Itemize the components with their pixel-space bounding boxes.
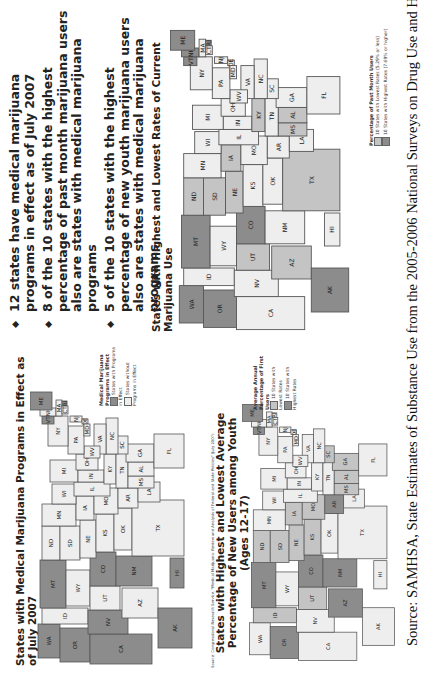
state-ct: CT: [205, 46, 212, 55]
state-nd: ND: [253, 531, 270, 563]
state-ca: CA: [237, 297, 305, 330]
svg-text:CO: CO: [100, 564, 106, 573]
svg-text:KY: KY: [314, 473, 320, 480]
svg-text:NY: NY: [55, 427, 61, 435]
svg-text:SD: SD: [67, 539, 73, 547]
map-legend: Average Annual Percentage of First Users…: [252, 350, 298, 410]
svg-text:HI: HI: [377, 572, 383, 578]
state-nm: NM: [265, 211, 305, 244]
state-ms: MS: [128, 476, 154, 488]
svg-text:CO: CO: [247, 220, 254, 229]
state-ks: KS: [304, 519, 321, 555]
svg-text:CT: CT: [272, 417, 278, 425]
state-ar: AR: [267, 136, 289, 158]
svg-text:VT: VT: [187, 57, 194, 65]
legend-item: 10 States with Lowest Rates: [270, 350, 284, 410]
state-ky: KY: [312, 463, 323, 491]
svg-text:ME: ME: [38, 396, 44, 405]
svg-text:MN: MN: [199, 161, 206, 171]
svg-text:AR: AR: [275, 142, 282, 151]
state-mn: MN: [253, 510, 285, 531]
svg-text:OH: OH: [229, 103, 236, 112]
svg-text:GA: GA: [288, 92, 295, 102]
svg-text:SC: SC: [119, 441, 125, 448]
svg-text:AL: AL: [289, 111, 296, 119]
svg-text:NJ: NJ: [217, 57, 225, 64]
svg-text:NV: NV: [312, 617, 318, 625]
svg-text:NJ: NJ: [282, 427, 289, 433]
state-mi: MI: [261, 468, 287, 489]
state-wy: WY: [66, 570, 90, 606]
state-ar: AR: [118, 488, 138, 508]
svg-text:NC: NC: [316, 442, 322, 450]
state-mi: MI: [193, 105, 224, 129]
svg-text:UT: UT: [309, 594, 315, 602]
svg-text:ND: ND: [190, 192, 197, 202]
svg-text:TX: TX: [359, 529, 365, 537]
svg-text:IN: IN: [296, 481, 302, 487]
svg-text:WA: WA: [188, 299, 195, 310]
svg-text:CT: CT: [62, 406, 68, 414]
state-ne: NE: [226, 171, 244, 213]
svg-text:LA: LA: [351, 495, 357, 502]
svg-text:MT: MT: [192, 237, 199, 246]
legend-title: Average Annual Percentage of First Users: [252, 350, 270, 410]
svg-text:WI: WI: [61, 490, 67, 497]
state-ca: CA: [298, 632, 356, 660]
state-ia: IA: [221, 145, 241, 171]
state-sd: SD: [270, 531, 289, 563]
state-mn: MN: [184, 154, 221, 178]
svg-text:KS: KS: [102, 529, 108, 537]
svg-text:MI: MI: [271, 475, 277, 481]
state-mt: MT: [251, 563, 275, 608]
svg-text:FL: FL: [320, 91, 327, 98]
state-sd: SD: [204, 178, 226, 215]
state-wy: WY: [210, 226, 236, 266]
svg-text:FL: FL: [166, 447, 172, 454]
state-fl: FL: [359, 444, 387, 476]
svg-text:TN: TN: [268, 112, 275, 121]
svg-text:PA: PA: [282, 446, 288, 453]
state-nm: NM: [323, 559, 357, 587]
state-hi: HI: [374, 561, 387, 589]
state-mn: MN: [42, 504, 76, 526]
state-ri: RI: [271, 412, 277, 418]
map-legend: Percentage of Past Month Users 10 States…: [368, 6, 390, 146]
state-wv: WV: [84, 446, 100, 458]
state-ak: AK: [158, 608, 192, 648]
state-ct: CT: [272, 417, 278, 425]
svg-text:OK: OK: [326, 529, 332, 537]
svg-text:MD: MD: [293, 436, 299, 444]
svg-text:TN: TN: [119, 466, 125, 474]
svg-text:IA: IA: [227, 154, 234, 161]
state-ga: GA: [276, 88, 307, 108]
legend-item: 10 States with Highest Rates: [284, 350, 298, 410]
svg-text:FL: FL: [370, 457, 376, 463]
svg-text:VA: VA: [244, 77, 251, 86]
svg-text:NC: NC: [257, 74, 264, 83]
state-wa: WA: [179, 286, 203, 323]
svg-text:AZ: AZ: [288, 258, 295, 266]
svg-text:MD: MD: [229, 67, 236, 77]
state-tx: TX: [338, 506, 387, 559]
state-me: ME: [30, 392, 52, 410]
legend-item: States with Programs in Effect: [110, 346, 124, 406]
svg-text:ID: ID: [62, 613, 68, 619]
svg-text:TX: TX: [308, 176, 315, 185]
svg-text:MT: MT: [261, 580, 267, 588]
state-or: OR: [204, 290, 237, 327]
svg-text:WI: WI: [204, 139, 211, 147]
svg-text:LA: LA: [298, 136, 305, 145]
svg-text:TX: TX: [155, 524, 161, 532]
svg-text:IN: IN: [234, 120, 241, 126]
svg-text:MO: MO: [250, 145, 257, 155]
svg-text:MI: MI: [61, 467, 67, 474]
svg-text:KY: KY: [255, 111, 262, 119]
svg-text:VA: VA: [97, 435, 103, 442]
state-hi: HI: [170, 558, 184, 588]
state-wa: WA: [38, 624, 60, 658]
svg-text:OH: OH: [84, 458, 90, 466]
state-nc: NC: [106, 418, 118, 454]
svg-text:AK: AK: [172, 624, 178, 632]
svg-text:WI: WI: [271, 497, 277, 504]
